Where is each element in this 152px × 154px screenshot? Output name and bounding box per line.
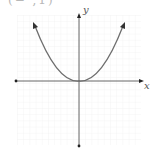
y-axis-label: y bbox=[83, 4, 89, 15]
x-axis-left-endpoint bbox=[15, 80, 18, 83]
x-axis-label: x bbox=[144, 80, 150, 91]
y-axis-bottom-endpoint bbox=[78, 145, 81, 148]
coordinate-plane bbox=[0, 0, 152, 154]
